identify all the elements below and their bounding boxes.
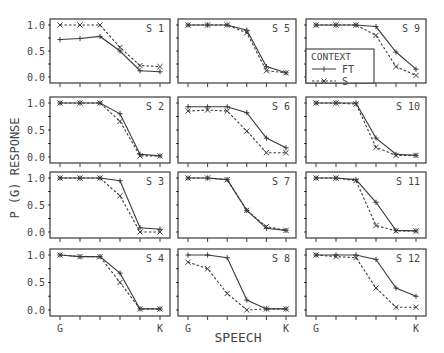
x-marker — [157, 64, 162, 69]
y-tick-label: 0.5 — [27, 277, 45, 288]
plus-marker — [185, 252, 190, 257]
x-marker — [244, 307, 249, 312]
x-label-g: G — [57, 323, 63, 334]
x-marker — [413, 73, 418, 78]
panel-label: S 7 — [272, 176, 290, 187]
x-marker — [373, 145, 378, 150]
panel-s6: S 6 — [176, 97, 296, 167]
y-tick-label: 0.5 — [27, 46, 45, 57]
y-tick-label: 1.0 — [27, 20, 45, 31]
plus-marker — [157, 227, 162, 232]
x-marker — [117, 119, 122, 124]
plus-marker — [353, 252, 358, 257]
plus-marker — [117, 178, 122, 183]
panel-s5: S 5 — [176, 19, 296, 87]
legend-entry-ft: FT — [342, 64, 354, 75]
plus-marker — [157, 69, 162, 74]
panel-label: S 1 — [146, 23, 164, 34]
panel-label: S 11 — [396, 176, 420, 187]
panel-label: S 12 — [396, 253, 420, 264]
plus-marker — [413, 294, 418, 299]
panel-s2: 0.00.51.0S 2 — [27, 97, 170, 167]
plus-marker — [205, 252, 210, 257]
panel-label: S 8 — [272, 253, 290, 264]
panel-label: S 6 — [272, 101, 290, 112]
x-label-k: K — [283, 323, 289, 334]
panel-s4: 0.00.51.0GKS 4 — [27, 249, 170, 334]
y-tick-label: 0.0 — [27, 305, 45, 316]
series-s-line — [188, 110, 286, 153]
panel-label: S 5 — [272, 23, 290, 34]
y-axis-title: P (G) RESPONSE — [8, 117, 22, 218]
plus-marker — [244, 298, 249, 303]
legend-entry-s: S — [342, 76, 348, 87]
y-tick-label: 0.0 — [27, 72, 45, 83]
plus-marker — [225, 255, 230, 260]
plus-marker — [244, 28, 249, 33]
x-marker — [373, 285, 378, 290]
y-tick-label: 0.0 — [27, 152, 45, 163]
x-label-g: G — [313, 323, 319, 334]
x-marker — [117, 280, 122, 285]
panel-s10: S 10 — [304, 97, 426, 167]
y-tick-label: 0.5 — [27, 200, 45, 211]
x-label-k: K — [413, 323, 419, 334]
x-marker — [205, 266, 210, 271]
plus-marker — [77, 36, 82, 41]
x-axis-title: SPEECH — [215, 330, 262, 345]
panel-s12: GKS 12 — [304, 249, 426, 334]
panel-s3: 0.00.51.0S 3 — [27, 172, 170, 242]
y-tick-label: 1.0 — [27, 98, 45, 109]
panel-label: S 10 — [396, 101, 420, 112]
legend: CONTEXTFTS — [306, 49, 374, 87]
x-label-g: G — [185, 323, 191, 334]
panel-label: S 2 — [146, 101, 164, 112]
y-tick-label: 1.0 — [27, 250, 45, 261]
plus-marker — [283, 145, 288, 150]
panel-s11: S 11 — [304, 172, 426, 242]
x-marker — [264, 150, 269, 155]
panel-s8: GKS 8 — [176, 249, 296, 334]
y-tick-label: 0.5 — [27, 125, 45, 136]
x-marker — [373, 33, 378, 38]
series-ft-line — [60, 36, 160, 71]
x-marker — [137, 63, 142, 68]
subject-panels-figure: 0.00.51.0S 1S 5S 9CONTEXTFTS0.00.51.0S 2… — [0, 0, 444, 353]
panel-s7: S 7 — [176, 172, 296, 242]
panel-label: S 3 — [146, 176, 164, 187]
panel-label: S 4 — [146, 253, 164, 264]
x-marker — [185, 260, 190, 265]
legend-title: CONTEXT — [311, 51, 351, 62]
x-label-k: K — [157, 323, 163, 334]
series-ft-line — [188, 107, 286, 148]
x-marker — [117, 193, 122, 198]
plus-marker — [117, 111, 122, 116]
x-marker — [393, 64, 398, 69]
y-tick-label: 1.0 — [27, 173, 45, 184]
panel-s9: S 9CONTEXTFTS — [304, 19, 426, 87]
x-marker — [225, 291, 230, 296]
plus-marker — [57, 37, 62, 42]
panel-label: S 9 — [402, 23, 420, 34]
panel-s1: 0.00.51.0S 1 — [27, 19, 170, 87]
x-marker — [244, 128, 249, 133]
series-s-line — [188, 262, 286, 310]
y-tick-label: 0.0 — [27, 227, 45, 238]
